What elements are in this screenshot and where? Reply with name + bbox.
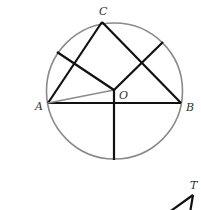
label-A: A bbox=[34, 100, 43, 113]
geometry-diagram: C A B O T bbox=[0, 0, 201, 210]
segment-T-left bbox=[168, 195, 193, 210]
label-C: C bbox=[99, 5, 108, 18]
label-B: B bbox=[185, 101, 194, 114]
segment-AC bbox=[48, 22, 102, 103]
bisector-BC bbox=[114, 42, 163, 90]
segment-OA bbox=[48, 90, 114, 103]
bisector-AC bbox=[57, 52, 114, 90]
label-O: O bbox=[119, 89, 128, 102]
label-T: T bbox=[190, 179, 199, 192]
